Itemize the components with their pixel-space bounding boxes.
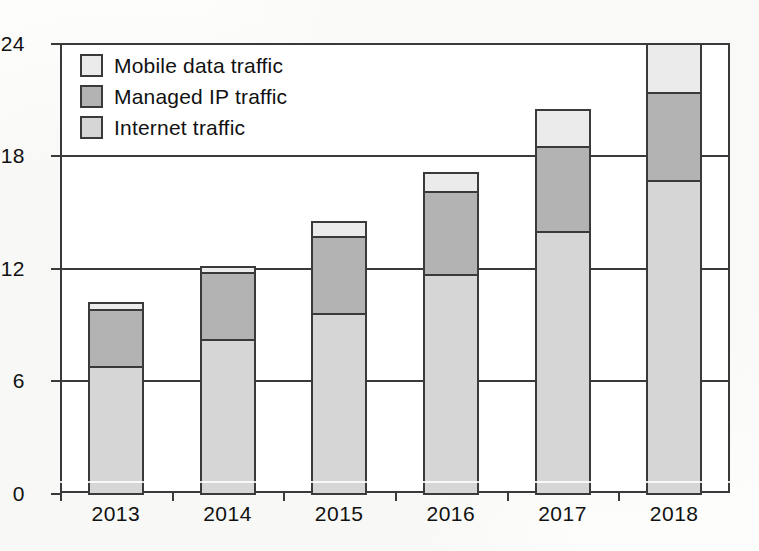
gridline-12 xyxy=(62,268,728,270)
legend-swatch-managed-ip-traffic xyxy=(80,85,103,108)
x-tick-mark-3 xyxy=(395,493,397,501)
y-tick-label-24: 24 xyxy=(0,33,25,54)
legend-swatch-mobile-data-traffic xyxy=(80,54,103,77)
bar-segment-2018-mobile-data-traffic xyxy=(646,43,702,94)
bar-segment-2015-managed-ip-traffic xyxy=(311,236,367,315)
legend-item-internet-traffic: Internet traffic xyxy=(80,112,380,143)
legend-swatch-internet-traffic xyxy=(80,116,103,139)
legend-label-internet-traffic: Internet traffic xyxy=(114,116,245,139)
x-tick-label-2018: 2018 xyxy=(624,503,724,524)
bar-segment-2016-mobile-data-traffic xyxy=(423,172,479,193)
y-tick-mark-24 xyxy=(51,43,60,45)
x-tick-label-2016: 2016 xyxy=(401,503,501,524)
x-tick-mark-4 xyxy=(507,493,509,501)
bar-segment-2015-internet-traffic xyxy=(311,313,367,495)
bar-segment-2014-managed-ip-traffic xyxy=(200,272,256,342)
bar-segment-2016-internet-traffic xyxy=(423,274,479,495)
y-tick-mark-18 xyxy=(51,155,60,157)
legend-item-managed-ip-traffic: Managed IP traffic xyxy=(80,81,380,112)
legend-label-mobile-data-traffic: Mobile data traffic xyxy=(114,54,283,77)
x-tick-label-2015: 2015 xyxy=(289,503,389,524)
y-tick-label-12: 12 xyxy=(0,258,25,279)
bar-segment-2014-internet-traffic xyxy=(200,339,256,495)
bar-stack-2018 xyxy=(646,43,702,493)
gridline-18 xyxy=(62,155,728,157)
bar-segment-2018-managed-ip-traffic xyxy=(646,92,702,182)
x-tick-label-2013: 2013 xyxy=(66,503,166,524)
x-tick-mark-0 xyxy=(60,493,62,501)
bar-segment-2016-managed-ip-traffic xyxy=(423,191,479,276)
y-tick-mark-0 xyxy=(51,493,60,495)
x-tick-label-2017: 2017 xyxy=(513,503,613,524)
x-tick-label-2014: 2014 xyxy=(178,503,278,524)
bar-segment-2015-mobile-data-traffic xyxy=(311,221,367,238)
legend-item-mobile-data-traffic: Mobile data traffic xyxy=(80,50,380,81)
x-tick-mark-1 xyxy=(172,493,174,501)
y-tick-label-18: 18 xyxy=(0,145,25,166)
gridline-6 xyxy=(62,380,728,382)
bar-segment-2013-managed-ip-traffic xyxy=(88,309,144,367)
bar-segment-2013-internet-traffic xyxy=(88,366,144,496)
bar-stack-2017 xyxy=(535,43,591,493)
legend-label-managed-ip-traffic: Managed IP traffic xyxy=(114,85,287,108)
bar-segment-2017-internet-traffic xyxy=(535,231,591,496)
bar-stack-2016 xyxy=(423,43,479,493)
bar-segment-2017-mobile-data-traffic xyxy=(535,109,591,149)
y-tick-label-6: 6 xyxy=(0,370,25,391)
y-tick-mark-12 xyxy=(51,268,60,270)
bar-segment-2018-internet-traffic xyxy=(646,180,702,495)
y-tick-mark-6 xyxy=(51,380,60,382)
stacked-bar-chart: 24 18 12 6 0 201320142015201620172018 Mo… xyxy=(0,0,759,551)
chart-legend: Mobile data traffic Managed IP traffic I… xyxy=(80,50,380,143)
bar-segment-2017-managed-ip-traffic xyxy=(535,146,591,232)
y-tick-label-0: 0 xyxy=(0,483,25,504)
x-tick-mark-2 xyxy=(283,493,285,501)
x-tick-mark-5 xyxy=(618,493,620,501)
bar-segment-2014-mobile-data-traffic xyxy=(200,266,256,274)
bar-segment-2013-mobile-data-traffic xyxy=(88,302,144,312)
